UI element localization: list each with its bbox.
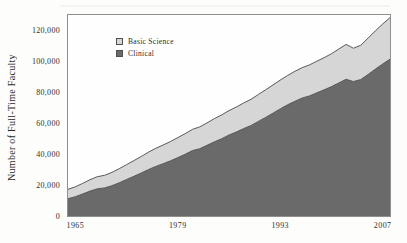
y-tick-label: 20,000 bbox=[0, 181, 60, 190]
basic-science-swatch-icon bbox=[116, 38, 123, 45]
x-tick-label: 1965 bbox=[57, 221, 93, 231]
legend-label-basic-science: Basic Science bbox=[128, 37, 174, 46]
legend: Basic Science Clinical bbox=[116, 37, 174, 58]
legend-item-basic-science: Basic Science bbox=[116, 37, 174, 46]
legend-item-clinical: Clinical bbox=[116, 49, 174, 58]
y-tick-label: 120,000 bbox=[0, 26, 60, 35]
stacked-area-chart-figure: Number of Full-Time Faculty 020,00040,00… bbox=[0, 0, 407, 243]
y-tick-label: 60,000 bbox=[0, 119, 60, 128]
legend-label-clinical: Clinical bbox=[128, 49, 154, 58]
x-tick-label: 1979 bbox=[160, 221, 196, 231]
y-tick-label: 80,000 bbox=[0, 88, 60, 97]
y-tick-label: 100,000 bbox=[0, 57, 60, 66]
clinical-area bbox=[68, 59, 390, 216]
x-tick-label: 2007 bbox=[365, 221, 401, 231]
y-tick-label: 0 bbox=[0, 212, 60, 221]
y-tick-label: 40,000 bbox=[0, 150, 60, 159]
x-tick-label: 1993 bbox=[262, 221, 298, 231]
scan-artifact bbox=[60, 5, 390, 7]
clinical-swatch-icon bbox=[116, 50, 123, 57]
